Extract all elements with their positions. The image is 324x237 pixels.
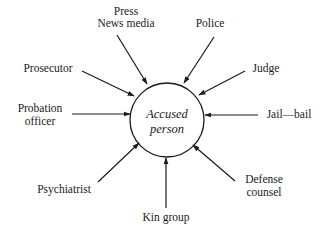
label-psychiatrist: Psychiatrist [37, 183, 91, 196]
label-defense-counsel-line-1: Defense [245, 173, 283, 185]
label-press-news-media-line-1: Press [114, 5, 139, 17]
accused-person-diagram: Accused person PressNews mediaPolicePros… [0, 0, 324, 237]
label-judge: Judge [253, 62, 280, 75]
label-kin-group: Kin group [143, 211, 190, 224]
arrow-prosecutor [82, 71, 134, 96]
label-jail-bail: Jail—bail [267, 108, 312, 120]
center-label-line-1: Accused [145, 107, 188, 121]
arrow-police [184, 37, 214, 83]
label-probation-officer-line-1: Probation [18, 102, 63, 114]
arrow-psychiatrist [98, 143, 139, 182]
center-node: Accused person [130, 83, 204, 157]
label-press-news-media-line-2: News media [97, 17, 154, 29]
arrow-defense-counsel [193, 145, 235, 181]
label-police: Police [196, 17, 225, 29]
label-probation-officer-line-2: officer [25, 115, 56, 127]
center-label-line-2: person [149, 122, 184, 136]
arrow-judge [199, 71, 245, 95]
label-defense-counsel-line-2: counsel [246, 186, 281, 198]
label-prosecutor: Prosecutor [23, 62, 72, 74]
arrow-press-news-media [117, 35, 147, 84]
